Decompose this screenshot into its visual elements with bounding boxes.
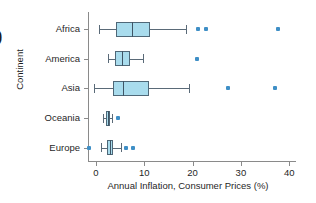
x-tick-mark — [193, 162, 194, 166]
outlier-point — [276, 27, 280, 31]
x-tick-label: 40 — [274, 167, 304, 178]
outlier-point — [204, 27, 208, 31]
whisker-high — [150, 29, 186, 30]
outlier-point — [226, 86, 230, 90]
outlier-point — [116, 116, 120, 120]
x-tick-mark — [96, 162, 97, 166]
x-tick-label: 10 — [129, 167, 159, 178]
outlier-point — [195, 57, 199, 61]
whisker-cap-low — [101, 143, 102, 152]
y-tick-label-europe: Europe — [49, 142, 80, 153]
whisker-cap-low — [94, 84, 95, 93]
boxplot-figure: ) Continent Annual Inflation, Consumer P… — [0, 0, 316, 203]
x-tick-mark — [289, 162, 290, 166]
median-line — [123, 81, 124, 96]
median-line — [110, 140, 111, 155]
median-line — [132, 22, 133, 37]
x-axis-title: Annual Inflation, Consumer Prices (%) — [70, 180, 306, 191]
y-tick-label-oceania: Oceania — [45, 112, 80, 123]
whisker-low — [99, 29, 116, 30]
median-line — [108, 111, 109, 126]
y-tick-label-asia: Asia — [62, 82, 80, 93]
outlier-point — [196, 27, 200, 31]
median-line — [122, 51, 123, 66]
whisker-cap-high — [121, 143, 122, 152]
outlier-point — [131, 146, 135, 150]
y-tick-mark — [84, 59, 88, 60]
y-tick-mark — [84, 29, 88, 30]
x-tick-mark — [241, 162, 242, 166]
y-tick-label-africa: Africa — [56, 23, 80, 34]
x-tick-mark — [144, 162, 145, 166]
y-axis-line — [88, 12, 89, 162]
whisker-cap-low — [108, 54, 109, 63]
box-iqr — [116, 22, 150, 37]
whisker-cap-low — [103, 114, 104, 123]
outlier-point — [124, 146, 128, 150]
whisker-cap-high — [189, 84, 190, 93]
outlier-point — [273, 86, 277, 90]
x-tick-label: 20 — [178, 167, 208, 178]
x-tick-label: 0 — [81, 167, 111, 178]
box-iqr — [113, 81, 149, 96]
whisker-low — [94, 88, 113, 89]
y-axis-title: Continent — [14, 27, 25, 113]
y-tick-label-america: America — [45, 53, 80, 64]
y-tick-mark — [84, 118, 88, 119]
clipped-corner-glyph: ) — [0, 26, 2, 45]
x-tick-label: 30 — [226, 167, 256, 178]
outlier-point — [87, 146, 91, 150]
y-tick-mark — [84, 88, 88, 89]
whisker-cap-high — [112, 114, 113, 123]
whisker-cap-high — [186, 25, 187, 34]
whisker-cap-high — [143, 54, 144, 63]
whisker-high — [149, 88, 189, 89]
whisker-high — [130, 59, 143, 60]
whisker-high — [113, 148, 120, 149]
whisker-cap-low — [99, 25, 100, 34]
